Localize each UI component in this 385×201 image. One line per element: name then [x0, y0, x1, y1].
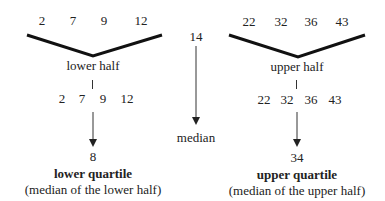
lower-quartile-note: (median of the lower half)	[25, 183, 161, 196]
upper-quartile-note: (median of the upper half)	[229, 184, 365, 197]
median-value: 14	[190, 30, 203, 43]
median-arrowhead-icon	[192, 117, 200, 125]
lower-top-value: 2	[39, 14, 46, 27]
lower-half-label: lower half	[66, 59, 119, 72]
upper-top-value: 43	[336, 15, 349, 28]
upper-split-value: 22	[258, 93, 271, 106]
lower-split-value: 7	[79, 92, 86, 105]
upper-split-value: 43	[329, 93, 342, 106]
lower-arrowhead-icon	[89, 139, 97, 147]
upper-top-value: 36	[305, 15, 318, 28]
upper-quartile-value: 34	[291, 151, 304, 164]
lower-quartile-value: 8	[90, 150, 97, 163]
lower-split-value: 12	[121, 92, 134, 105]
lower-half-bracket	[27, 35, 162, 56]
upper-half-bracket	[229, 35, 365, 57]
median-label: median	[177, 131, 215, 144]
lower-quartile-label: lower quartile	[54, 167, 132, 180]
upper-split-value: 36	[305, 93, 318, 106]
lower-top-value: 9	[101, 14, 108, 27]
upper-arrowhead-icon	[293, 139, 301, 147]
lower-top-value: 7	[70, 14, 77, 27]
upper-top-value: 22	[243, 15, 256, 28]
upper-top-value: 32	[275, 15, 288, 28]
upper-split-value: 32	[281, 93, 294, 106]
lower-split-value: 2	[59, 92, 66, 105]
lower-split-value: 9	[100, 92, 107, 105]
upper-quartile-label: upper quartile	[257, 168, 337, 181]
lower-top-value: 12	[135, 14, 148, 27]
upper-half-label: upper half	[270, 60, 323, 73]
